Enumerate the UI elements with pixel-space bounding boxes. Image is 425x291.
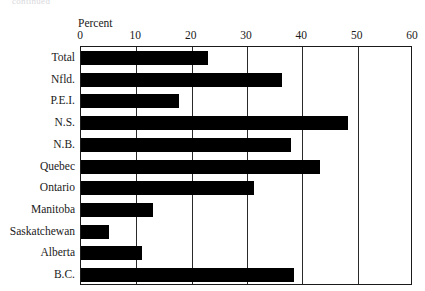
- bar-n-b: [81, 138, 291, 152]
- x-tick-label-60: 60: [406, 28, 418, 42]
- x-tick-label-50: 50: [351, 28, 363, 42]
- y-tick-label-b-c: B.C.: [54, 268, 75, 280]
- y-tick-label-quebec: Quebec: [40, 160, 75, 172]
- y-tick-label-n-s: N.S.: [55, 116, 75, 128]
- y-tick-label-alberta: Alberta: [41, 246, 75, 258]
- bar-total: [81, 51, 208, 65]
- y-tick-label-ontario: Ontario: [40, 181, 75, 193]
- y-tick-label-p-e-i: P.E.I.: [50, 94, 75, 106]
- bar-n-s: [81, 116, 348, 130]
- bar-chart: Percent 0102030405060 TotalNfld.P.E.I.N.…: [0, 0, 425, 291]
- bar-p-e-i: [81, 94, 179, 108]
- x-tick-label-0: 0: [77, 28, 83, 42]
- x-tick-label-40: 40: [296, 28, 308, 42]
- y-tick-label-nfld: Nfld.: [51, 73, 75, 85]
- bar-alberta: [81, 246, 142, 260]
- y-tick-label-saskatchewan: Saskatchewan: [10, 225, 75, 237]
- y-tick-label-total: Total: [52, 51, 75, 63]
- bar-b-c: [81, 268, 294, 282]
- bar-series: [81, 47, 411, 284]
- x-axis-tick-labels: 0102030405060: [0, 28, 425, 44]
- x-tick-label-30: 30: [240, 28, 252, 42]
- x-tick-label-10: 10: [130, 28, 142, 42]
- plot-area: [80, 46, 412, 285]
- bar-nfld: [81, 73, 282, 87]
- bar-ontario: [81, 181, 254, 195]
- bar-saskatchewan: [81, 225, 109, 239]
- y-axis-category-labels: TotalNfld.P.E.I.N.S.N.B.QuebecOntarioMan…: [0, 46, 78, 285]
- y-tick-label-manitoba: Manitoba: [31, 203, 75, 215]
- bar-manitoba: [81, 203, 153, 217]
- bar-quebec: [81, 160, 320, 174]
- x-tick-label-20: 20: [185, 28, 197, 42]
- y-tick-label-n-b: N.B.: [53, 138, 75, 150]
